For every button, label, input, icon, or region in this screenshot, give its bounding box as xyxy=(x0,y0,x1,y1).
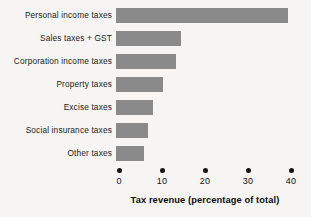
x-axis-tick: 20 xyxy=(193,168,217,186)
tick-dot-icon xyxy=(246,168,251,173)
bar-social-insurance-taxes xyxy=(116,123,148,138)
bar-row: Excise taxes xyxy=(0,99,311,115)
x-axis: 0 10 20 30 40 Tax revenue (percentage of… xyxy=(119,168,291,208)
bar-category-label: Personal income taxes xyxy=(0,10,116,20)
x-tick-label: 20 xyxy=(193,176,217,186)
x-axis-title: Tax revenue (percentage of total) xyxy=(119,195,291,205)
tick-dot-icon xyxy=(203,168,208,173)
bar-row: Personal income taxes xyxy=(0,7,311,23)
bar-corporation-income-taxes xyxy=(116,54,176,69)
bar-category-label: Property taxes xyxy=(0,79,116,89)
bar-track xyxy=(116,77,311,92)
x-axis-tick: 10 xyxy=(150,168,174,186)
bar-category-label: Sales taxes + GST xyxy=(0,33,116,43)
bar-sales-taxes-gst xyxy=(116,31,181,46)
tick-dot-icon xyxy=(117,168,122,173)
bar-property-taxes xyxy=(116,77,163,92)
bar-excise-taxes xyxy=(116,100,153,115)
bar-chart: Personal income taxes Sales taxes + GST … xyxy=(0,0,311,217)
bar-row: Sales taxes + GST xyxy=(0,30,311,46)
x-axis-tick: 0 xyxy=(107,168,131,186)
bar-row: Other taxes xyxy=(0,145,311,161)
bar-row: Social insurance taxes xyxy=(0,122,311,138)
x-tick-label: 40 xyxy=(279,176,303,186)
x-tick-label: 0 xyxy=(107,176,131,186)
bar-track xyxy=(116,146,311,161)
x-axis-tick: 30 xyxy=(236,168,260,186)
x-axis-tick: 40 xyxy=(279,168,303,186)
bar-track xyxy=(116,100,311,115)
bar-row: Corporation income taxes xyxy=(0,53,311,69)
bar-category-label: Social insurance taxes xyxy=(0,125,116,135)
bar-category-label: Other taxes xyxy=(0,148,116,158)
bar-personal-income-taxes xyxy=(116,8,288,23)
tick-dot-icon xyxy=(289,168,294,173)
bar-row: Property taxes xyxy=(0,76,311,92)
bar-track xyxy=(116,8,311,23)
bar-category-label: Corporation income taxes xyxy=(0,56,116,66)
bar-other-taxes xyxy=(116,146,144,161)
bar-category-label: Excise taxes xyxy=(0,102,116,112)
x-tick-label: 30 xyxy=(236,176,260,186)
bar-track xyxy=(116,54,311,69)
x-tick-label: 10 xyxy=(150,176,174,186)
tick-dot-icon xyxy=(160,168,165,173)
bar-track xyxy=(116,123,311,138)
bar-track xyxy=(116,31,311,46)
